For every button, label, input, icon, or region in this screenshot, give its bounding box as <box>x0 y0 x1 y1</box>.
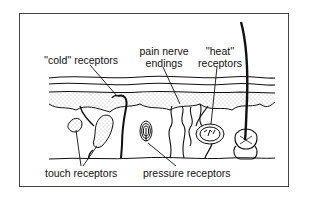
pain-nerve-endings-label: pain nerve endings <box>132 45 196 69</box>
heat-label-line-2: receptors <box>195 57 245 69</box>
skin-surface-line-1 <box>49 76 275 78</box>
touch-receptor-large <box>93 115 113 147</box>
skin-surface-line-2 <box>49 83 275 85</box>
heat-receptor <box>196 124 224 158</box>
pain-label-line-1: pain nerve <box>132 45 196 57</box>
cold-receptors-label: ''cold'' receptors <box>44 54 118 66</box>
pain-label-line-2: endings <box>132 57 196 69</box>
touch-receptors-label: touch receptors <box>45 167 117 179</box>
pressure-receptor <box>140 121 152 141</box>
touch-receptor-small <box>68 118 82 132</box>
hair-follicle <box>234 22 257 159</box>
pressure-receptors-label: pressure receptors <box>143 167 231 179</box>
heat-receptors-label: ''heat'' receptors <box>195 45 245 69</box>
heat-label-line-1: ''heat'' <box>195 45 245 57</box>
